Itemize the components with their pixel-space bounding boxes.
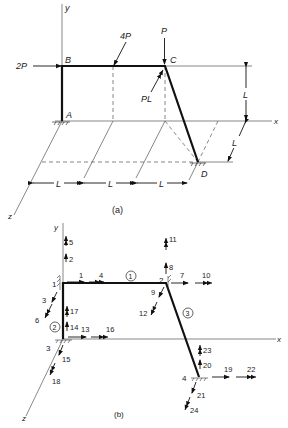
dof-arrow-21 (192, 382, 196, 393)
point-label-A: A (65, 110, 72, 120)
load-label-2P: 2P (15, 61, 27, 71)
frame-diagram: y x z B A C D (0, 0, 288, 428)
point-label-C: C (170, 55, 177, 65)
dof-label-18: 18 (52, 377, 60, 386)
dim-label-height: L (243, 90, 248, 100)
member-label-2: 2 (53, 324, 57, 331)
point-label-D: D (201, 169, 208, 179)
node-label-2: 2 (159, 276, 164, 285)
dof-label-22: 22 (247, 365, 255, 374)
y-axis-label-a: y (64, 3, 70, 13)
dof-label-24: 24 (190, 406, 198, 415)
dof-label-7: 7 (180, 271, 184, 280)
node-label-1: 1 (52, 280, 57, 289)
projection-dashed (165, 121, 198, 162)
dof-label-5: 5 (69, 238, 73, 247)
dim-label-depth: L (232, 138, 237, 148)
dof-label-1: 1 (79, 271, 83, 280)
moment-arrow-PL (151, 70, 163, 92)
dof-arrow-3 (52, 292, 57, 302)
load-label-4P: 4P (120, 31, 131, 41)
dof-label-20: 20 (203, 361, 211, 370)
caption-b: (b) (114, 410, 124, 419)
dof-label-4: 4 (99, 271, 103, 280)
dof-label-23: 23 (203, 346, 211, 355)
dof-arrow-9 (159, 287, 164, 297)
member-label-1: 1 (129, 273, 133, 280)
z-axis-label-a: z (7, 212, 12, 221)
dof-label-8: 8 (169, 263, 173, 272)
member-label-3: 3 (186, 310, 190, 317)
ground-dashed-line (198, 121, 218, 162)
fixed-support-D (190, 163, 206, 166)
figure-a: y x z B A C D (7, 3, 279, 221)
node-label-3: 3 (46, 344, 51, 353)
dof-label-2: 2 (69, 255, 73, 264)
dof-label-19: 19 (224, 365, 232, 374)
caption-a: (a) (112, 205, 123, 215)
dof-label-21: 21 (197, 391, 205, 400)
dof-label-3: 3 (42, 296, 46, 305)
dim-label-span-2: L (108, 179, 113, 189)
load-arrow-4P (114, 42, 126, 65)
frame-members-a (62, 66, 198, 162)
dof-label-10: 10 (202, 271, 210, 280)
dof-arrow-12 (151, 302, 157, 315)
moment-label-PL: PL (141, 94, 152, 104)
dof-label-14: 14 (70, 323, 78, 332)
figure-b: y x z 1 2 3 4 1 2 3 1 2 3 4 (21, 223, 282, 423)
x-axis-label-b: x (276, 335, 282, 344)
dof-label-16: 16 (106, 325, 114, 334)
z-axis-label-b: z (21, 414, 26, 423)
point-label-B: B (65, 55, 71, 65)
dim-label-span-3: L (159, 179, 164, 189)
dof-label-11: 11 (169, 235, 177, 244)
load-label-P: P (161, 26, 167, 36)
dof-label-13: 13 (81, 325, 89, 334)
ground-line (189, 162, 198, 180)
dof-arrow-6 (45, 304, 52, 318)
dof-label-15: 15 (62, 355, 70, 364)
dim-label-span-1: L (56, 179, 61, 189)
dof-label-12: 12 (139, 309, 147, 318)
z-axis-a (14, 121, 62, 215)
ground-line (136, 121, 165, 178)
dof-label-9: 9 (151, 288, 155, 297)
y-axis-label-b: y (53, 223, 59, 232)
dof-label-6: 6 (35, 316, 39, 325)
node-label-4: 4 (182, 374, 187, 383)
ground-line (84, 121, 113, 178)
x-axis-label-a: x (273, 117, 279, 126)
dof-label-17: 17 (70, 307, 78, 316)
